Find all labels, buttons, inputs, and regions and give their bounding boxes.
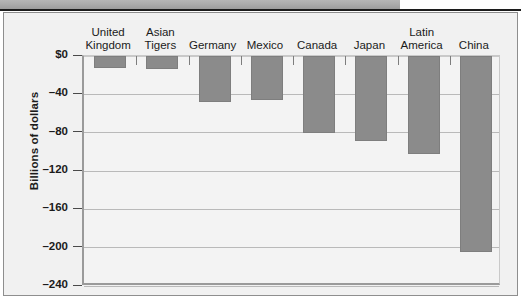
x-axis-tick (136, 56, 137, 65)
page-header-band-right (400, 0, 521, 9)
bar (460, 56, 492, 252)
gridline (84, 286, 499, 287)
x-axis-tick (345, 56, 346, 65)
bar (303, 56, 335, 133)
y-axis-tick (73, 170, 82, 171)
y-axis-tick-label: –80 (4, 125, 68, 137)
x-axis-tick (293, 56, 294, 65)
bar (199, 56, 231, 102)
y-axis-tick (73, 131, 82, 132)
plot-area (82, 55, 500, 285)
bar (355, 56, 387, 141)
gridline (84, 171, 499, 172)
header-divider-rule (0, 9, 521, 11)
x-axis-category-label: China (442, 26, 506, 51)
y-axis-tick (73, 55, 82, 56)
bar (408, 56, 440, 154)
y-axis-tick-label: –200 (4, 240, 68, 252)
x-axis-tick (398, 56, 399, 65)
category-label-line-2: China (442, 39, 506, 52)
x-axis-tick (241, 56, 242, 65)
x-axis-tick (189, 56, 190, 65)
y-axis-tick (73, 93, 82, 94)
screenshot-root: Billions of dollars $0–40–80–120–160–200… (0, 0, 521, 299)
x-axis-tick (450, 56, 451, 65)
bar (146, 56, 178, 69)
y-axis-tick-label: –40 (4, 86, 68, 98)
y-axis-title: Billions of dollars (28, 61, 40, 221)
chart-figure: Billions of dollars $0–40–80–120–160–200… (3, 12, 518, 296)
y-axis-tick-label: –240 (4, 278, 68, 290)
category-label-line-1 (442, 26, 506, 39)
y-axis-tick (73, 246, 82, 247)
y-axis-tick-label: –120 (4, 163, 68, 175)
bar (94, 56, 126, 68)
y-axis-tick-label: –160 (4, 201, 68, 213)
page-header-band (0, 0, 400, 9)
y-axis-tick (73, 208, 82, 209)
gridline (84, 247, 499, 248)
bar (251, 56, 283, 100)
y-axis-tick (73, 285, 82, 286)
y-axis-tick-label: $0 (4, 48, 68, 60)
gridline (84, 209, 499, 210)
